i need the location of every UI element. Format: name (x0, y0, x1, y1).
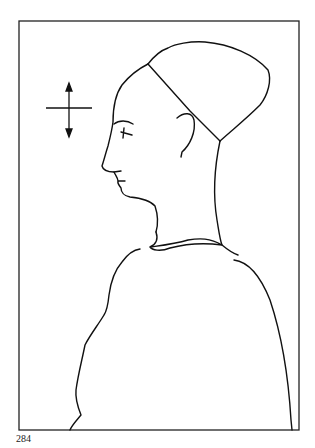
cap-outline (148, 42, 270, 141)
ear (177, 114, 194, 157)
portrait-line-art (70, 42, 292, 430)
eye (121, 128, 132, 138)
figure-frame (19, 21, 299, 430)
neck-back (215, 141, 222, 245)
cap-band (148, 64, 220, 141)
page-number: 284 (16, 433, 31, 444)
front-body (70, 249, 140, 430)
lips-chin (114, 172, 157, 232)
collar (150, 232, 238, 255)
back-body (234, 260, 292, 430)
eyebrow (114, 121, 133, 124)
orientation-cross-icon (46, 83, 92, 137)
face-profile (102, 64, 148, 172)
portrait-figure (0, 0, 315, 448)
